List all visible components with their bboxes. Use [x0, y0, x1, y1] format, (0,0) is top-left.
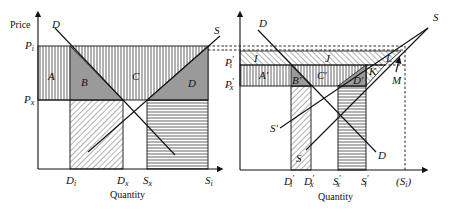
right-x-axis-label: Quantity — [318, 191, 353, 202]
price-px-prime-label: P′x — [224, 76, 235, 92]
area-a-label: A — [47, 70, 55, 82]
price-px-label: Px — [23, 93, 35, 107]
qty-dx-label: Dx — [116, 174, 129, 188]
price-pi-prime-label: P′i — [224, 54, 235, 70]
qty-di-prime-label: D′i — [283, 173, 295, 189]
area-l-label: L — [385, 52, 392, 64]
area-k-label: K — [368, 65, 377, 77]
right-supply-top-label: S — [433, 11, 439, 23]
area-c-prime-label: C′ — [317, 69, 327, 81]
qty-si-label: Si — [205, 174, 213, 188]
m-pointer-arrow — [396, 60, 399, 72]
qty-sx-label: Sx — [143, 174, 153, 188]
area-d-prime-label: D′ — [352, 74, 364, 86]
qty-si-free-label: (Si) — [396, 175, 411, 189]
right-supply-bottom-label: S — [296, 152, 302, 164]
qty-di-label: Di — [65, 174, 76, 188]
right-supply-prime-label: S′ — [270, 122, 279, 134]
right-demand-bottom-label: D — [377, 149, 386, 161]
qty-si-prime-label: S′i — [361, 173, 370, 189]
left-supply-label: S — [214, 24, 220, 36]
area-c-label: C — [132, 70, 140, 82]
economics-diagram: Price Quantity Pi Px Di Dx Sx Si D S A B… — [0, 0, 450, 213]
area-b-label: B — [81, 76, 88, 88]
area-b-prime-label: B′ — [292, 74, 302, 86]
area-d-label: D — [187, 77, 196, 89]
left-demand-label: D — [51, 18, 60, 30]
import-demand-block — [70, 100, 123, 169]
area-m-label: M — [391, 74, 402, 86]
right-panel: P′i P′x D′i D′x S′x S′i (Si) Quantity D … — [224, 11, 439, 202]
qty-sx-prime-label: S′x — [333, 173, 342, 189]
area-a-prime-label: A′ — [258, 69, 269, 81]
export-supply-block-prime — [338, 86, 366, 170]
qty-dx-prime-label: D′x — [303, 173, 315, 189]
left-panel: Price Quantity Pi Px Di Dx Sx Si D S A B… — [10, 14, 225, 200]
left-y-axis-label: Price — [10, 19, 31, 30]
right-demand-top-label: D — [258, 17, 267, 29]
left-x-axis-label: Quantity — [110, 189, 145, 200]
price-pi-label: Pi — [24, 39, 34, 53]
